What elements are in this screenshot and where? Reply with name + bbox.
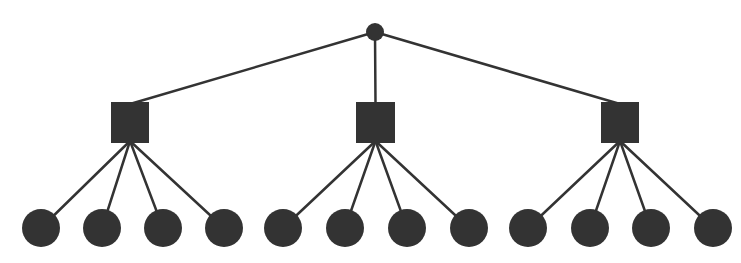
edge-root-to-branch-2 (375, 32, 376, 104)
branch-node-1 (111, 102, 149, 143)
leaf-node-2-4 (450, 209, 488, 247)
edge-root-to-branch-1 (130, 32, 375, 104)
root-node (366, 23, 384, 41)
nodes (22, 23, 732, 247)
edge-root-to-branch-3 (375, 32, 620, 104)
edge-branch-2-to-leaf-1 (283, 141, 376, 228)
leaf-node-1-2 (83, 209, 121, 247)
leaf-node-2-3 (388, 209, 426, 247)
branch-node-3 (601, 102, 639, 143)
edge-branch-2-to-leaf-4 (376, 141, 470, 228)
leaf-node-2-2 (326, 209, 364, 247)
tree-diagram-canvas (0, 0, 741, 263)
leaf-node-3-2 (571, 209, 609, 247)
edge-branch-3-to-leaf-4 (620, 141, 713, 228)
branch-node-2 (356, 102, 395, 143)
leaf-node-3-1 (509, 209, 547, 247)
leaf-node-1-4 (205, 209, 243, 247)
leaf-node-3-4 (694, 209, 732, 247)
edge-branch-1-to-leaf-4 (130, 141, 224, 228)
leaf-node-1-1 (22, 209, 60, 247)
tree-diagram (0, 0, 741, 263)
leaf-node-2-1 (264, 209, 302, 247)
leaf-node-3-3 (632, 209, 670, 247)
leaf-node-1-3 (144, 209, 182, 247)
